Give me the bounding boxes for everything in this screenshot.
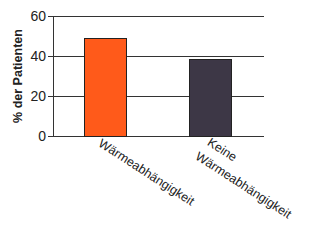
gridline-60 xyxy=(53,16,264,17)
x-label-waermeabhaengigkeit-2: Wärmeabhängigkeit xyxy=(193,150,293,221)
x-label-waermeabhaengigkeit: Wärmeabhängigkeit xyxy=(96,137,196,208)
y-tick-60: 60 xyxy=(22,8,46,24)
y-tick-40: 40 xyxy=(22,48,46,64)
y-tick-0: 0 xyxy=(22,128,46,144)
bar-chart: % der Patienten 0 20 40 60 Wärmeabhängig… xyxy=(0,0,317,234)
bar-keine-waermeabhaengigkeit xyxy=(189,59,232,137)
y-axis-line xyxy=(53,16,54,137)
y-axis-label: % der Patienten xyxy=(11,29,25,123)
bar-waermeabhaengigkeit xyxy=(84,38,127,137)
y-tick-20: 20 xyxy=(22,88,46,104)
